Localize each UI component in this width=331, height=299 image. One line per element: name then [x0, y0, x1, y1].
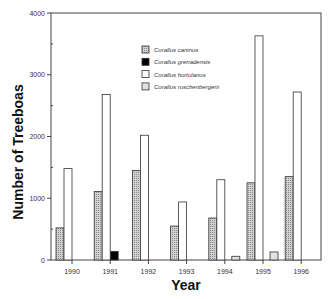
bar-chart: 01000200030004000 1990199119921993199419…: [0, 0, 331, 299]
legend-swatch: [142, 83, 149, 90]
y-tick-label: 0: [41, 257, 45, 264]
bar-caninus: [285, 177, 293, 260]
bar-hortulanus: [217, 180, 225, 260]
legend-label: Corallus caninus: [154, 47, 198, 53]
legend-swatch: [142, 58, 149, 65]
legend-label: Corallus grenadensis: [154, 59, 210, 65]
y-axis-title: Number of Treeboas: [10, 84, 26, 220]
bar-caninus: [209, 218, 217, 260]
bar-hortulanus: [140, 135, 148, 260]
bar-ruschenbergerii: [270, 252, 278, 260]
x-tick-label: 1991: [102, 268, 118, 275]
bar-hortulanus: [255, 36, 263, 260]
bar-caninus: [132, 170, 140, 260]
x-axis-title: Year: [171, 277, 201, 293]
bars: [56, 36, 301, 260]
x-tick-label: 1992: [141, 268, 157, 275]
x-tick-label: 1993: [179, 268, 195, 275]
x-tick-label: 1994: [217, 268, 233, 275]
bar-caninus: [247, 183, 255, 260]
bar-caninus: [171, 226, 179, 260]
y-tick-label: 4000: [29, 10, 45, 17]
x-tick-label: 1990: [64, 268, 80, 275]
x-axis: 1990199119921993199419951996: [64, 260, 309, 275]
y-tick-label: 3000: [29, 71, 45, 78]
bar-hortulanus: [64, 169, 72, 260]
bar-caninus: [94, 191, 102, 260]
bar-ruschenbergerii: [232, 256, 240, 260]
bar-caninus: [56, 228, 64, 260]
legend: Corallus caninusCorallus grenadensisCora…: [142, 46, 220, 90]
legend-swatch: [142, 46, 149, 53]
legend-label: Corallus ruschenbergerii: [154, 84, 220, 90]
bar-hortulanus: [293, 92, 301, 260]
y-tick-label: 1000: [29, 195, 45, 202]
bar-hortulanus: [179, 202, 187, 260]
y-axis: 01000200030004000: [29, 10, 53, 264]
legend-label: Corallus hortulanus: [154, 72, 206, 78]
x-tick-label: 1996: [293, 268, 309, 275]
legend-swatch: [142, 71, 149, 78]
y-tick-label: 2000: [29, 133, 45, 140]
x-tick-label: 1995: [255, 268, 271, 275]
bar-grenadensis: [110, 251, 118, 260]
bar-hortulanus: [102, 95, 110, 260]
